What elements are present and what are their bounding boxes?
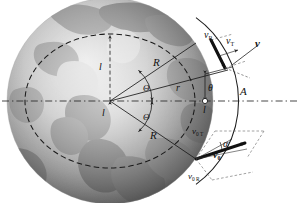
label-v0T-sub: 0 T [196, 131, 203, 137]
label-point-A: A [240, 86, 247, 97]
vT-segment [219, 50, 238, 56]
label-vR: vR [204, 30, 212, 40]
label-v: v [255, 38, 260, 49]
label-v0T: v0 T [192, 127, 203, 136]
label-alpha: α [223, 139, 228, 149]
v0-parallelogram-right [247, 131, 264, 158]
label-vR-sub: R [208, 35, 212, 41]
point-marker-l [202, 98, 207, 103]
theta-upper-ref [205, 67, 232, 74]
angle-arc-alpha [220, 142, 222, 150]
label-v0R: v0 R [188, 172, 200, 181]
label-vT: vT [226, 36, 234, 46]
label-l-lower: l [102, 108, 105, 118]
earth-globe [0, 0, 218, 203]
vector-vR [211, 40, 225, 68]
v-tangent-ref [225, 68, 250, 78]
label-Theta-upper: Θ [143, 84, 150, 93]
label-vT-sub: T [230, 41, 234, 47]
label-v0: v0 [213, 150, 220, 160]
figure-canvas [0, 0, 299, 203]
label-R-lower: R [150, 130, 157, 141]
label-l-upper: l [99, 62, 102, 72]
v0-parallelogram-bottomright [212, 172, 253, 180]
vector-v [232, 46, 257, 65]
orbital-mechanics-figure: l l l R R r Θ Θ θ A α vR vT v v0 v0 T v0… [0, 0, 299, 203]
label-l-axis: l [203, 105, 206, 115]
label-v0R-sub: 0 R [192, 176, 200, 182]
label-theta: θ [208, 83, 213, 93]
label-R-upper: R [153, 57, 160, 68]
label-Theta-lower: Θ [143, 113, 150, 122]
label-r: r [176, 83, 180, 93]
